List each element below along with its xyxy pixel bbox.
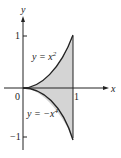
- curve-upper-label: y = x2: [31, 50, 57, 62]
- tick-label-origin: 0: [15, 91, 20, 102]
- tick-label-y1: 1: [15, 30, 20, 41]
- tick-label-x1: 1: [74, 91, 79, 102]
- tick-label-yneg1: −1: [10, 131, 21, 142]
- axis-y-label: y: [20, 4, 26, 15]
- x-axis-arrow-icon: [103, 86, 109, 90]
- curve-lower-label: y = −x4: [26, 107, 58, 119]
- axis-x-label: x: [110, 83, 116, 94]
- area-between-curves-diagram: y x 0 1 1 −1 y = x2 y = −x4: [0, 0, 121, 158]
- y-axis-arrow-icon: [21, 16, 25, 22]
